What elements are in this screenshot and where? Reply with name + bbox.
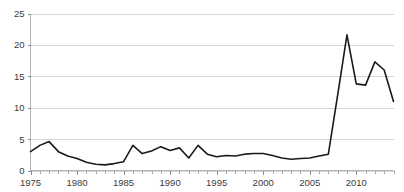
y-tick-label-15: 15 [14, 71, 25, 82]
y-axis: 0510152025 [14, 8, 31, 176]
y-tick-label-0: 0 [19, 165, 24, 176]
y-tick-label-20: 20 [14, 39, 25, 50]
series-line-1 [31, 35, 394, 165]
x-tick-label-1985: 1985 [113, 177, 134, 188]
chart-canvas: 0510152025 19751980198519901995200020052… [0, 0, 404, 192]
x-tick-label-2005: 2005 [299, 177, 320, 188]
y-tick-label-10: 10 [14, 102, 25, 113]
data-series [31, 35, 394, 165]
y-tick-label-5: 5 [19, 134, 24, 145]
x-axis: 19751980198519901995200020052010 [20, 171, 395, 188]
x-tick-label-2010: 2010 [346, 177, 367, 188]
x-tick-label-2000: 2000 [253, 177, 274, 188]
y-tick-label-25: 25 [14, 8, 25, 19]
gridlines [31, 15, 394, 172]
x-tick-label-1995: 1995 [206, 177, 227, 188]
x-tick-label-1990: 1990 [160, 177, 181, 188]
line-chart: 0510152025 19751980198519901995200020052… [0, 0, 404, 192]
x-tick-label-1975: 1975 [20, 177, 41, 188]
x-tick-label-1980: 1980 [66, 177, 87, 188]
